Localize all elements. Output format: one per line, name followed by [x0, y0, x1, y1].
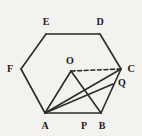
vertex-label-b: B: [99, 121, 106, 131]
segment-OC: [71, 69, 121, 71]
vertex-label-c: C: [127, 64, 134, 74]
hexagon-side-FA: [21, 69, 45, 113]
vertex-label-f: F: [7, 64, 13, 74]
hexagon-side-EF: [21, 34, 46, 69]
vertex-label-p: P: [81, 121, 87, 131]
hexagon-side-CD: [100, 34, 121, 69]
vertex-label-q: Q: [118, 78, 126, 88]
geometry-figure: EDFOCQAPB: [0, 0, 142, 136]
vertex-label-d: D: [96, 17, 103, 27]
vertex-label-e: E: [43, 17, 50, 27]
segment-AC: [45, 69, 121, 113]
segments-layer: [21, 34, 121, 113]
geometry-canvas: [0, 0, 142, 136]
vertex-label-a: A: [41, 121, 48, 131]
vertex-label-o: O: [66, 56, 74, 66]
segment-OB: [71, 71, 101, 113]
